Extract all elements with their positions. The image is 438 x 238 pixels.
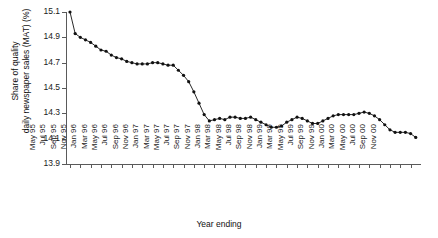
data-point (264, 123, 267, 126)
data-point (373, 114, 376, 117)
data-point (311, 122, 314, 125)
data-point (378, 118, 381, 121)
data-point (285, 121, 288, 124)
data-point (151, 61, 154, 64)
data-point (89, 41, 92, 44)
data-point (342, 113, 345, 116)
data-point (404, 131, 407, 134)
data-point (399, 131, 402, 134)
data-point (197, 102, 200, 105)
data-point (383, 123, 386, 126)
data-point (161, 62, 164, 65)
data-point (332, 114, 335, 117)
data-point (270, 126, 273, 129)
data-point (177, 69, 180, 72)
data-point (84, 38, 87, 41)
data-series-line (0, 0, 438, 238)
data-point (394, 131, 397, 134)
data-point (110, 53, 113, 56)
data-point (99, 48, 102, 51)
data-point (208, 119, 211, 122)
data-point (321, 119, 324, 122)
chart-figure: Share of quality daily newspaper sales (… (0, 0, 438, 238)
data-point (74, 32, 77, 35)
data-point (141, 62, 144, 65)
data-point (218, 117, 221, 120)
data-point (213, 118, 216, 121)
data-point (275, 126, 278, 129)
data-point (337, 113, 340, 116)
x-axis-title: Year ending (0, 219, 438, 229)
data-point (357, 112, 360, 115)
data-point (156, 61, 159, 64)
data-point (301, 117, 304, 120)
data-point (306, 119, 309, 122)
data-point (368, 112, 371, 115)
data-point (166, 64, 169, 67)
data-point (388, 128, 391, 131)
data-point (223, 118, 226, 121)
data-point (130, 61, 133, 64)
data-point (259, 121, 262, 124)
data-point (363, 110, 366, 113)
data-point (290, 118, 293, 121)
data-point (234, 116, 237, 119)
data-point (146, 62, 149, 65)
data-point (115, 56, 118, 59)
series-path (70, 12, 416, 137)
data-point (295, 116, 298, 119)
data-point (239, 117, 242, 120)
data-point (79, 36, 82, 39)
data-point (120, 57, 123, 60)
data-point (172, 64, 175, 67)
data-point (352, 113, 355, 116)
data-point (125, 60, 128, 63)
data-point (414, 136, 417, 139)
data-point (409, 132, 412, 135)
data-point (280, 124, 283, 127)
data-point (347, 113, 350, 116)
data-point (316, 122, 319, 125)
data-point (105, 50, 108, 53)
data-point (254, 118, 257, 121)
data-point (326, 117, 329, 120)
data-point (68, 10, 71, 13)
data-point (228, 116, 231, 119)
data-point (192, 90, 195, 93)
data-point (182, 74, 185, 77)
data-point (203, 113, 206, 116)
data-point (249, 116, 252, 119)
data-point (244, 117, 247, 120)
data-point (94, 45, 97, 48)
data-point (187, 80, 190, 83)
data-point (135, 62, 138, 65)
